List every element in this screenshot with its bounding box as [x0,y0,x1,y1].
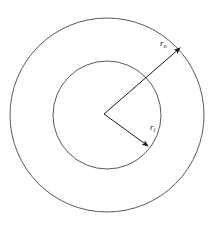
annulus-diagram-canvas: ro ri [0,0,220,230]
outer-radius-arrow [104,48,180,114]
annulus-svg: ro ri [0,0,220,230]
inner-radius-arrow [104,114,148,146]
inner-radius-label: ri [150,122,156,133]
outer-radius-label: ro [160,38,168,49]
inner-radius-subscript: i [154,126,156,133]
inner-circle [53,61,161,169]
outer-circle [10,18,204,212]
outer-radius-subscript: o [164,42,168,49]
